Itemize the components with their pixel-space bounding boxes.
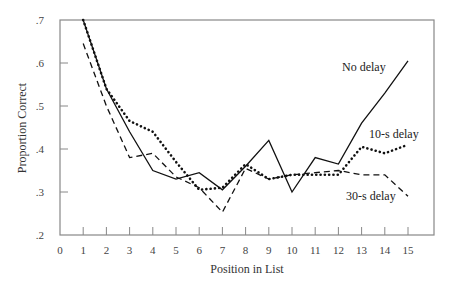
x-tick-label: 0 bbox=[57, 244, 63, 256]
x-tick-label: 12 bbox=[333, 244, 344, 256]
y-tick-label: .5 bbox=[36, 100, 45, 112]
x-tick-label: 10 bbox=[287, 244, 299, 256]
x-tick-label: 6 bbox=[196, 244, 202, 256]
y-tick-label: .2 bbox=[36, 229, 44, 241]
label-10s-delay: 10-s delay bbox=[369, 127, 419, 141]
series-no-delay bbox=[83, 20, 408, 192]
x-tick-label: 4 bbox=[150, 244, 156, 256]
x-tick-label: 7 bbox=[220, 244, 226, 256]
x-tick-label: 1 bbox=[80, 244, 86, 256]
x-tick-label: 15 bbox=[403, 244, 415, 256]
y-tick-label: .4 bbox=[36, 143, 45, 155]
x-tick-label: 3 bbox=[127, 244, 133, 256]
y-axis-title: Proportion Correct bbox=[15, 82, 29, 173]
x-axis-title: Position in List bbox=[210, 262, 284, 276]
data-series bbox=[83, 20, 408, 212]
series-10-s-delay bbox=[83, 20, 408, 190]
y-tick-label: .7 bbox=[36, 14, 45, 26]
axis-ticks: 0123456789101112131415.2.3.4.5.6.7 bbox=[36, 14, 414, 256]
x-tick-label: 13 bbox=[356, 244, 368, 256]
label-no-delay: No delay bbox=[342, 60, 386, 74]
y-tick-label: .6 bbox=[36, 57, 45, 69]
x-tick-label: 14 bbox=[379, 244, 391, 256]
x-tick-label: 2 bbox=[104, 244, 110, 256]
x-tick-label: 11 bbox=[310, 244, 321, 256]
x-tick-label: 8 bbox=[243, 244, 249, 256]
label-30s-delay: 30-s delay bbox=[346, 189, 396, 203]
line-chart: 0123456789101112131415.2.3.4.5.6.7 No de… bbox=[0, 0, 449, 287]
x-tick-label: 9 bbox=[266, 244, 272, 256]
y-tick-label: .3 bbox=[36, 186, 45, 198]
x-tick-label: 5 bbox=[173, 244, 179, 256]
